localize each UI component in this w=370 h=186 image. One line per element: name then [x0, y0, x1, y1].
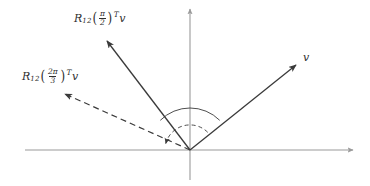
label-rotated-90: R12 ( π 2 )T v	[74, 9, 126, 27]
label-rotated-120: R12 ( 2π 3 )T v	[22, 67, 78, 85]
label-rotated-90-math: R12 ( π 2 )T v	[74, 10, 126, 27]
vector-rotated-120	[65, 94, 190, 150]
label-rotated-90-superscript: T	[114, 11, 119, 19]
label-rotated-90-denominator: 2	[99, 18, 106, 27]
label-rotated-120-base: R	[22, 71, 30, 82]
label-rotated-90-base: R	[74, 13, 82, 24]
vector-rotated-90	[107, 41, 190, 150]
label-rotated-90-numerator: π	[99, 10, 106, 18]
label-rotated-90-subscript: 12	[82, 18, 91, 25]
vector-v	[190, 65, 296, 150]
label-rotated-120-denominator: 3	[49, 76, 56, 85]
paren-close-icon: )	[60, 69, 65, 84]
paren-close-icon: )	[107, 11, 112, 26]
label-rotated-120-subscript: 12	[30, 76, 39, 83]
paren-open-icon: (	[41, 69, 46, 84]
label-rotated-120-numerator: 2π	[47, 68, 59, 76]
label-rotated-120-superscript: T	[67, 69, 72, 77]
label-rotated-90-vector: v	[119, 13, 125, 24]
label-rotated-120-vector: v	[72, 71, 78, 82]
paren-open-icon: (	[93, 11, 98, 26]
vector-rotation-figure: R12 ( π 2 )T v R12 ( 2π 3 )T v v	[0, 0, 370, 186]
label-rotated-120-fraction: 2π 3	[47, 68, 59, 85]
figure-canvas	[0, 0, 370, 186]
label-rotated-120-math: R12 ( 2π 3 )T v	[22, 68, 78, 85]
label-rotated-90-fraction: π 2	[99, 10, 106, 27]
label-v: v	[303, 52, 309, 63]
